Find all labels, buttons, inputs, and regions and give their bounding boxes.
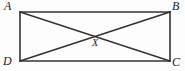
intersection-label-x: X [92, 38, 98, 48]
vertex-label-a: A [4, 0, 11, 12]
rectangle-diagonals-drawing [0, 0, 185, 71]
vertex-label-c: C [172, 56, 180, 68]
vertex-label-b: B [172, 0, 179, 12]
vertex-label-d: D [3, 55, 12, 67]
geometry-figure: A B C D X [0, 0, 185, 71]
